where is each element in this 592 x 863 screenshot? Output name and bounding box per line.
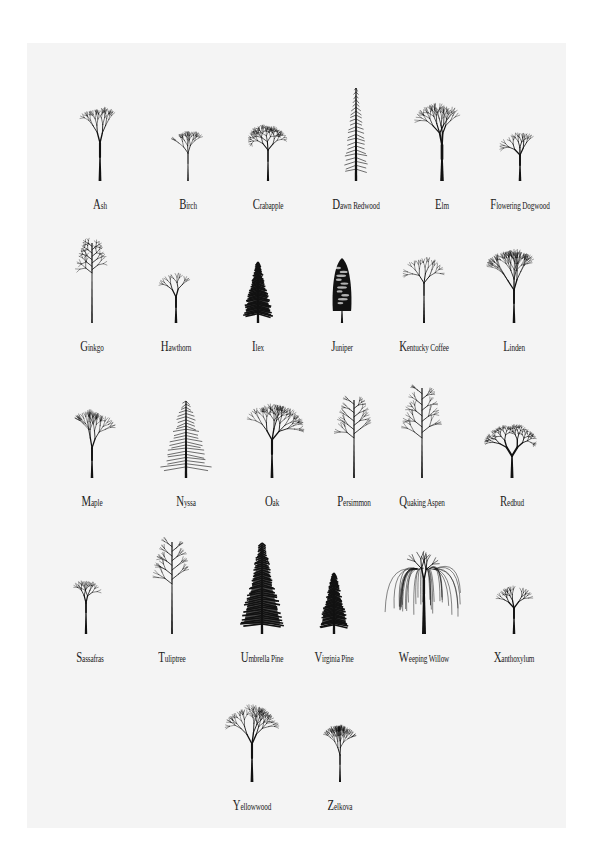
tuliptree-tree-icon — [127, 531, 217, 646]
tree-name-label: Dawn Redwood — [309, 196, 403, 213]
tree-name-label: Linden — [467, 338, 561, 355]
tree-card-ginkgo: Ginkgo — [47, 220, 137, 360]
tree-name-label: Juniper — [295, 338, 389, 355]
elm-tree-icon — [397, 78, 487, 193]
tree-name-label: Ash — [53, 196, 147, 213]
tree-card-weeping-willow: Weeping Willow — [379, 531, 469, 671]
xanthoxylum-tree-icon — [469, 531, 559, 646]
tree-card-birch: Birch — [143, 78, 233, 218]
tree-name-label: Kentucky Coffee — [377, 338, 471, 355]
tree-card-maple: Maple — [47, 375, 137, 515]
tree-card-dawn-redwood: Dawn Redwood — [311, 78, 401, 218]
maple-tree-icon — [47, 375, 137, 490]
tree-card-xanthoxylum: Xanthoxylum — [469, 531, 559, 671]
zelkova-tree-icon — [295, 679, 385, 794]
tree-name-label: Flowering Dogwood — [473, 196, 567, 213]
tree-name-label: Quaking Aspen — [375, 493, 469, 510]
tree-name-label: Hawthorn — [129, 338, 223, 355]
oak-tree-icon — [227, 375, 317, 490]
yellowwood-tree-icon — [207, 679, 297, 794]
birch-tree-icon — [143, 78, 233, 193]
tree-name-label: Xanthoxylum — [467, 649, 561, 666]
tree-card-kentucky-coffee: Kentucky Coffee — [379, 220, 469, 360]
juniper-tree-icon — [297, 220, 387, 335]
tree-name-label: Weeping Willow — [377, 649, 471, 666]
ilex-tree-icon — [213, 220, 303, 335]
tree-card-quaking-aspen: Quaking Aspen — [377, 375, 467, 515]
tree-card-nyssa: Nyssa — [141, 375, 231, 515]
tree-name-label: Maple — [45, 493, 139, 510]
sassafras-tree-icon — [45, 531, 135, 646]
virginia-pine-tree-icon — [289, 531, 379, 646]
tree-name-label: Oak — [225, 493, 319, 510]
ginkgo-tree-icon — [47, 220, 137, 335]
ash-tree-icon — [55, 78, 145, 193]
tree-name-label: Zelkova — [293, 797, 387, 814]
tree-card-ilex: Ilex — [213, 220, 303, 360]
tree-name-label: Yellowwood — [205, 797, 299, 814]
tree-card-ash: Ash — [55, 78, 145, 218]
tree-card-sassafras: Sassafras — [45, 531, 135, 671]
hawthorn-tree-icon — [131, 220, 221, 335]
tree-name-label: Redbud — [465, 493, 559, 510]
tree-card-yellowwood: Yellowwood — [207, 679, 297, 819]
tree-name-label: Ginkgo — [45, 338, 139, 355]
redbud-tree-icon — [467, 375, 557, 490]
tree-card-oak: Oak — [227, 375, 317, 515]
tree-name-label: Crabapple — [221, 196, 315, 213]
tree-card-juniper: Juniper — [297, 220, 387, 360]
tree-name-label: Nyssa — [139, 493, 233, 510]
flowering-dogwood-tree-icon — [475, 78, 565, 193]
tree-identification-poster: AshBirchCrabappleDawn RedwoodElmFlowerin… — [27, 43, 566, 828]
nyssa-tree-icon — [141, 375, 231, 490]
linden-tree-icon — [469, 220, 559, 335]
tree-name-label: Ilex — [211, 338, 305, 355]
tree-card-hawthorn: Hawthorn — [131, 220, 221, 360]
tree-name-label: Sassafras — [43, 649, 137, 666]
tree-card-flowering-dogwood: Flowering Dogwood — [475, 78, 565, 218]
weeping-willow-tree-icon — [379, 531, 469, 646]
tree-card-virginia-pine: Virginia Pine — [289, 531, 379, 671]
tree-card-tuliptree: Tuliptree — [127, 531, 217, 671]
kentucky-coffee-tree-icon — [379, 220, 469, 335]
tree-card-zelkova: Zelkova — [295, 679, 385, 819]
crabapple-tree-icon — [223, 78, 313, 193]
tree-name-label: Virginia Pine — [287, 649, 381, 666]
tree-card-redbud: Redbud — [467, 375, 557, 515]
quaking-aspen-tree-icon — [377, 375, 467, 490]
dawn-redwood-tree-icon — [311, 78, 401, 193]
tree-name-label: Tuliptree — [125, 649, 219, 666]
tree-card-linden: Linden — [469, 220, 559, 360]
tree-card-crabapple: Crabapple — [223, 78, 313, 218]
